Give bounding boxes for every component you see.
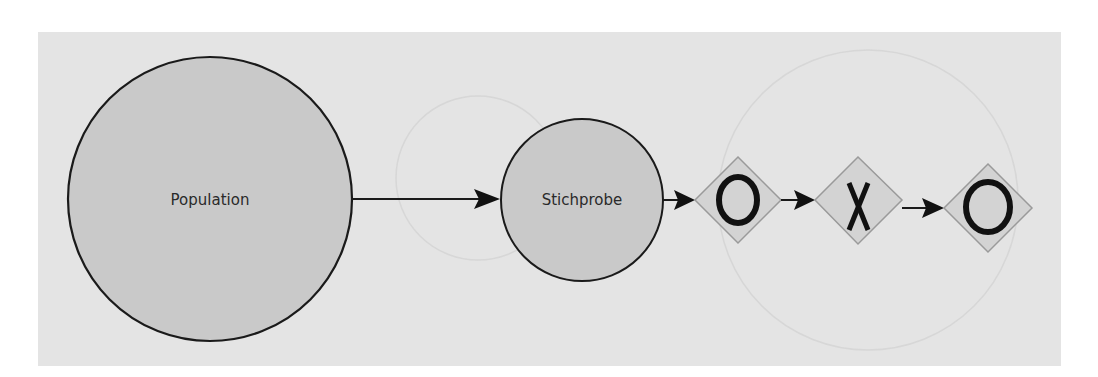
edge-outcome-1-outcome-2 <box>781 190 815 210</box>
diamond-shape <box>695 157 781 243</box>
flow-diagram: Population Stichprobe <box>0 0 1098 377</box>
node-outcome-1 <box>695 157 781 243</box>
node-stichprobe: Stichprobe <box>501 119 663 281</box>
diamond-shape <box>944 164 1032 252</box>
node-outcome-3 <box>944 164 1032 252</box>
edge-outcome-2-outcome-3 <box>902 198 944 218</box>
edge-population-stichprobe <box>352 189 500 209</box>
population-label: Population <box>171 191 250 209</box>
node-outcome-2 <box>815 157 902 244</box>
stichprobe-label: Stichprobe <box>542 191 623 209</box>
edge-stichprobe-outcome-1 <box>663 190 695 210</box>
node-population: Population <box>68 57 352 341</box>
